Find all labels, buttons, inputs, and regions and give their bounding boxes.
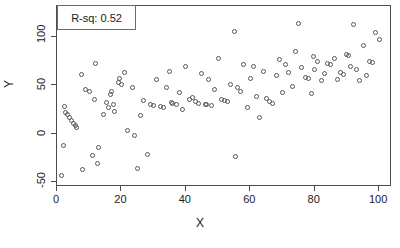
data-point [80,167,85,172]
data-point [257,115,262,120]
plot-area [56,5,391,186]
data-point [233,154,238,159]
data-point [87,89,92,94]
data-point [101,112,106,117]
x-tick-mark [314,186,315,191]
x-tick-label: 60 [243,193,255,205]
y-tick-mark [51,181,56,182]
y-tick-label: 50 [35,77,47,91]
x-tick-label: 80 [308,193,320,205]
data-point [177,90,182,95]
data-point [180,107,185,112]
r-squared-legend-box: R-sq: 0.52 [57,5,136,30]
data-point [299,65,304,70]
data-point [74,125,79,130]
data-point [311,54,316,59]
data-point [335,77,340,82]
data-point [130,85,135,90]
data-point [290,84,295,89]
data-point [296,21,301,26]
data-point [151,103,156,108]
data-point [228,82,233,87]
data-point [238,89,243,94]
x-tick-mark [249,186,250,191]
y-tick-mark [51,36,56,37]
data-point [138,113,143,118]
data-point [319,78,324,83]
data-point [79,72,84,77]
data-point [315,59,320,64]
data-point [351,22,356,27]
y-tick-label: 0 [35,126,47,140]
data-point [251,64,256,69]
data-point [270,101,275,106]
data-point [322,71,327,76]
x-tick-mark [185,186,186,191]
data-point [261,69,266,74]
data-point [346,53,351,58]
data-point [361,43,366,48]
data-point [109,89,114,94]
y-tick-mark [51,133,56,134]
data-point [95,161,100,166]
data-point [354,67,359,72]
data-point [377,37,382,42]
data-point [112,109,117,114]
data-point [199,71,204,76]
data-point [196,101,201,106]
data-point [357,78,362,83]
data-point [125,128,130,133]
x-tick-label: 100 [369,193,387,205]
x-tick-mark [120,186,121,191]
data-point [183,64,188,69]
data-point [106,105,111,110]
data-point [277,57,282,62]
data-point [209,103,214,108]
data-point [293,49,298,54]
data-points-layer [57,6,390,185]
data-point [206,77,211,82]
y-tick-label: 100 [35,29,47,43]
data-point [167,69,172,74]
data-point [122,70,127,75]
data-point [161,105,166,110]
data-point [174,102,179,107]
data-point [164,85,169,90]
data-point [117,76,122,81]
y-axis-label: Y [2,80,16,88]
data-point [135,166,140,171]
data-point [141,98,146,103]
data-point [62,104,67,109]
data-point [280,90,285,95]
data-point [306,76,311,81]
data-point [373,30,378,35]
data-point [370,60,375,65]
data-point [225,99,230,104]
data-point [212,87,217,92]
data-point [341,72,346,77]
r-squared-legend-label: R-sq: 0.52 [71,12,122,24]
data-point [241,62,246,67]
data-point [216,56,221,61]
data-point [309,91,314,96]
data-point [232,29,237,34]
data-point [119,82,124,87]
scatter-plot-figure: 020406080100 -50050100 X Y R-sq: 0.52 [0,0,400,248]
data-point [248,76,253,81]
data-point [90,153,95,158]
data-point [145,152,150,157]
x-tick-mark [378,186,379,191]
data-point [245,105,250,110]
y-tick-label: -50 [35,174,47,188]
x-tick-label: 0 [53,193,59,205]
data-point [132,133,137,138]
data-point [93,61,98,66]
data-point [61,143,66,148]
data-point [328,62,333,67]
data-point [154,77,159,82]
y-tick-mark [51,84,56,85]
x-tick-mark [56,186,57,191]
data-point [286,70,291,75]
data-point [364,73,369,78]
data-point [254,94,259,99]
